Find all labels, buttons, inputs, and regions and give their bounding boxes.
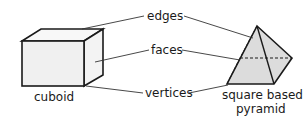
vertices-label: vertices (145, 86, 193, 100)
pyramid-label-line1: square based (222, 88, 303, 102)
pyramid-label-line2: pyramid (236, 102, 286, 116)
edges-label: edges (147, 9, 183, 23)
cuboid-shape (22, 29, 103, 86)
cuboid-label: cuboid (34, 90, 74, 104)
faces-label: faces (151, 43, 183, 57)
pyramid-shape (227, 26, 292, 84)
